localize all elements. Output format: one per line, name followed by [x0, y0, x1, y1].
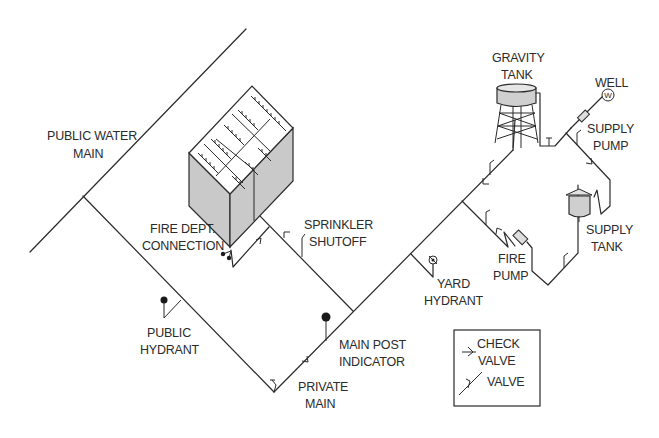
label-supply-tank-1: SUPPLY — [586, 223, 634, 237]
well-icon: W — [602, 89, 614, 101]
sprinkler-shutoff-valve-icon — [302, 234, 305, 257]
label-fire-dept-connection-2: CONNECTION — [142, 239, 224, 253]
label-fire-pump-2: PUMP — [493, 269, 528, 283]
tee-fitting-icon — [546, 138, 552, 146]
label-private-main-2: MAIN — [305, 397, 336, 411]
fire-pump-icon — [513, 230, 528, 245]
label-main-post-indicator-2: INDICATOR — [339, 355, 405, 369]
public-hydrant-icon — [161, 297, 182, 319]
label-well: WELL — [595, 76, 628, 90]
supply-tank-icon — [566, 189, 592, 222]
well-symbol-text: W — [604, 91, 612, 100]
label-sprinkler-shutoff-1: SPRINKLER — [304, 218, 373, 232]
legend-check-valve-label-2: VALVE — [478, 354, 515, 368]
label-public-water-main-2: MAIN — [73, 147, 104, 161]
check-valve-icon — [496, 228, 502, 234]
label-main-post-indicator-1: MAIN POST — [339, 338, 407, 352]
label-gravity-tank-1: GRAVITY — [492, 51, 545, 65]
label-yard-hydrant-1: YARD — [437, 277, 470, 291]
label-fire-dept-connection-1: FIRE DEPT. — [150, 222, 215, 236]
yard-hydrant-icon — [429, 256, 437, 264]
label-yard-hydrant-2: HYDRANT — [424, 294, 484, 308]
check-valve-icon — [302, 356, 308, 362]
label-private-main-1: PRIVATE — [298, 380, 348, 394]
label-supply-pump-2: PUMP — [593, 139, 628, 153]
check-valve-icon — [284, 232, 290, 238]
label-sprinkler-shutoff-2: SHUTOFF — [309, 235, 367, 249]
fire-pump-pipe — [462, 201, 515, 247]
gravity-tank-icon — [495, 84, 538, 148]
label-public-hydrant-1: PUBLIC — [147, 326, 191, 340]
label-fire-pump-1: FIRE — [498, 252, 526, 266]
check-valve-icon — [586, 158, 592, 164]
tank-outlet-pipe — [536, 93, 571, 146]
label-supply-tank-2: TANK — [591, 240, 623, 254]
label-gravity-tank-2: TANK — [501, 68, 533, 82]
valve-icon — [486, 210, 490, 225]
valve-icon — [577, 130, 581, 145]
valve-handle — [577, 130, 581, 133]
label-public-water-main-1: PUBLIC WATER — [47, 129, 137, 143]
fire-protection-diagram: W — [0, 0, 659, 438]
legend-check-valve-label-1: CHECK — [477, 337, 521, 351]
label-public-hydrant-2: HYDRANT — [140, 343, 200, 357]
supply-pump-icon — [577, 110, 589, 122]
legend: CHECK VALVE VALVE — [454, 330, 540, 406]
label-supply-pump-1: SUPPLY — [587, 122, 635, 136]
legend-valve-label: VALVE — [487, 375, 524, 389]
